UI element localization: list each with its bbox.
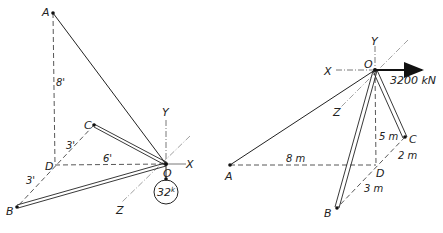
right-point-O <box>373 68 377 72</box>
right-label-A: A <box>224 170 233 183</box>
left-label-C: C <box>84 119 92 132</box>
right-label-X: X <box>323 65 332 78</box>
right-label-O: O <box>364 58 373 71</box>
right-label-Y: Y <box>371 35 379 48</box>
right-label-B: B <box>324 207 332 220</box>
left-label-O: O <box>163 167 172 180</box>
right-point-B <box>335 206 339 210</box>
right-line-OD <box>375 70 376 165</box>
left-figure: A C D B O Y X Z 8' 3' 6' 3' 32k <box>6 6 194 218</box>
left-dim-AD: 8' <box>56 77 65 88</box>
right-label-D: D <box>376 167 384 180</box>
left-label-X: X <box>185 158 194 171</box>
left-line-DO <box>55 164 166 165</box>
left-dim-DC: 3' <box>66 140 75 151</box>
left-load-label: 32k <box>157 186 176 199</box>
right-line-CB <box>337 137 405 208</box>
left-label-Y: Y <box>162 106 170 119</box>
left-point-B <box>15 205 19 209</box>
right-dim-DC: 2 m <box>398 150 418 161</box>
left-line-CB <box>17 125 94 207</box>
diagram-canvas: A C D B O Y X Z 8' 3' 6' 3' 32k <box>0 0 443 233</box>
left-label-A: A <box>41 6 50 19</box>
left-label-Z: Z <box>115 204 124 217</box>
right-cable-AO <box>230 70 375 165</box>
right-figure: A C D B O Y X Z 8 m 5 m 2 m 3 m 3200 kN <box>224 35 436 220</box>
right-dim-OD: 5 m <box>379 131 399 142</box>
left-label-D: D <box>45 160 53 173</box>
right-label-Z: Z <box>332 106 341 119</box>
right-point-A <box>228 163 232 167</box>
left-strut-BO-b <box>18 166 166 208</box>
left-label-B: B <box>6 205 14 218</box>
right-dim-DB: 3 m <box>364 183 384 194</box>
right-point-C <box>403 135 407 139</box>
left-line-AD <box>53 13 55 165</box>
left-point-A <box>51 11 55 15</box>
right-force-label: 3200 kN <box>390 74 436 87</box>
left-dim-DB: 3' <box>26 175 35 186</box>
left-point-O <box>164 162 168 166</box>
left-point-C <box>92 123 96 127</box>
left-dim-DO: 6' <box>103 153 112 164</box>
right-dim-AD: 8 m <box>286 153 306 164</box>
right-label-C: C <box>409 133 417 146</box>
